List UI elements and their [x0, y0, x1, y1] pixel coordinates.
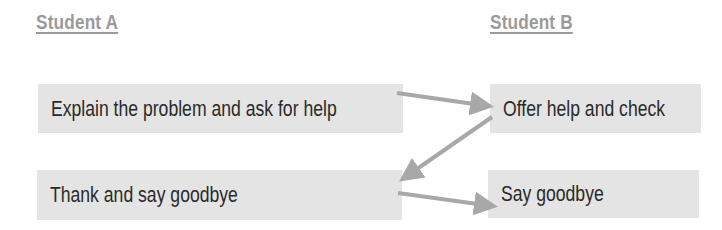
arrows-layer	[0, 0, 722, 230]
arrow-b1-to-a2-icon	[404, 117, 492, 178]
arrow-a2-to-b2-icon	[398, 193, 492, 206]
arrow-a1-to-b1-icon	[397, 93, 488, 106]
